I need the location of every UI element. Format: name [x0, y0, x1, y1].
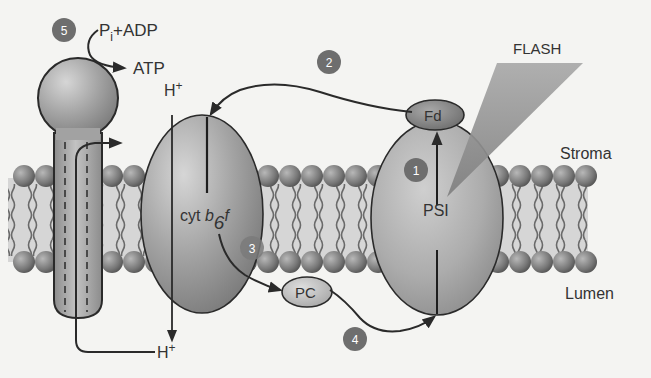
step-badge-1: 1 [404, 158, 428, 182]
psi-label: PSI [423, 202, 449, 219]
proton-label-top: H+ [164, 79, 183, 99]
fd-label: Fd [424, 107, 442, 124]
product-label: ATP [133, 59, 165, 78]
svg-text:5: 5 [61, 24, 68, 38]
reactant-label: Pi+ADP [99, 21, 158, 44]
svg-text:4: 4 [352, 333, 359, 347]
photosynthesis-diagram: H+ H+ Pi+ADP ATP cyt b6f PSI Fd PC FLASH… [0, 0, 651, 378]
proton-label-bottom: H+ [157, 341, 176, 361]
lumen-label: Lumen [565, 285, 614, 302]
fd-to-cytb6f-arrow [211, 84, 412, 114]
step-badge-3: 3 [240, 236, 264, 260]
svg-text:1: 1 [413, 164, 420, 178]
flash-label: FLASH [513, 40, 561, 57]
svg-text:2: 2 [326, 56, 333, 70]
pc-label: PC [295, 284, 316, 301]
step-badge-4: 4 [343, 327, 367, 351]
svg-text:3: 3 [249, 242, 256, 256]
step-badge-2: 2 [317, 50, 341, 74]
stroma-label: Stroma [560, 145, 612, 162]
step-badge-5: 5 [52, 18, 76, 42]
